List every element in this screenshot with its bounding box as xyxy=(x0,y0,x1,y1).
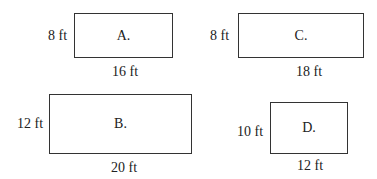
rectangle-b-height: 12 ft xyxy=(17,116,43,132)
rectangle-b-label: B. xyxy=(114,116,127,132)
rectangle-a: A. xyxy=(74,13,173,58)
rectangle-d-width: 12 ft xyxy=(297,158,323,174)
rectangle-a-label: A. xyxy=(117,28,131,44)
rectangle-c-width: 18 ft xyxy=(296,64,322,80)
rectangle-c-label: C. xyxy=(295,28,308,44)
rectangle-d-label: D. xyxy=(302,120,316,136)
rectangle-a-height: 8 ft xyxy=(48,28,67,44)
rectangle-a-width: 16 ft xyxy=(112,64,138,80)
rectangle-c: C. xyxy=(238,13,364,58)
rectangle-b: B. xyxy=(49,94,192,154)
rectangle-c-height: 8 ft xyxy=(210,28,229,44)
rectangle-b-width: 20 ft xyxy=(111,160,137,176)
rectangle-d-height: 10 ft xyxy=(237,124,263,140)
rectangle-d: D. xyxy=(270,102,348,154)
